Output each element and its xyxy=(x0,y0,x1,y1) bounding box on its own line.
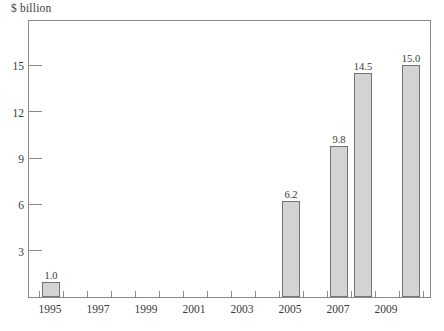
y-axis-tick xyxy=(29,111,42,112)
bar-value-label: 1.0 xyxy=(44,270,57,281)
x-axis-tick xyxy=(255,291,256,297)
y-axis-tick xyxy=(29,158,42,159)
y-axis-tick-label: 6 xyxy=(0,198,24,212)
x-axis-tick xyxy=(423,291,424,297)
y-axis-tick-label: 9 xyxy=(0,152,24,166)
y-axis-tick-label: 15 xyxy=(0,59,24,73)
y-axis-tick-label: 12 xyxy=(0,106,24,120)
x-axis-tick-label: 2005 xyxy=(279,303,302,315)
bar-1995 xyxy=(42,282,60,297)
x-axis-tick xyxy=(39,291,40,297)
y-axis-tick xyxy=(29,250,42,251)
x-axis-tick-label: 2009 xyxy=(375,303,398,315)
x-axis-tick xyxy=(327,291,328,297)
plot-area: 1.06.29.814.515.0 xyxy=(28,20,431,298)
x-axis-tick xyxy=(351,291,352,297)
x-axis-tick xyxy=(183,291,184,297)
bar-2010 xyxy=(402,65,420,297)
bar-2005 xyxy=(282,201,300,297)
x-axis-tick xyxy=(375,291,376,297)
x-axis-tick xyxy=(63,291,64,297)
y-axis-tick xyxy=(29,204,42,205)
x-axis-tick-label: 2001 xyxy=(183,303,206,315)
x-axis-tick xyxy=(87,291,88,297)
x-axis-tick-label: 1995 xyxy=(39,303,62,315)
x-axis-tick-label: 2007 xyxy=(327,303,350,315)
x-axis-tick xyxy=(303,291,304,297)
bar-value-label: 9.8 xyxy=(332,134,345,145)
x-axis-tick-label: 1997 xyxy=(87,303,110,315)
bar-value-label: 6.2 xyxy=(284,189,297,200)
y-axis-tick xyxy=(29,65,42,66)
bar-2007 xyxy=(330,146,348,297)
x-axis-tick-label: 1999 xyxy=(135,303,158,315)
x-axis-tick xyxy=(159,291,160,297)
x-axis-tick-label: 2003 xyxy=(231,303,254,315)
x-axis-tick xyxy=(279,291,280,297)
x-axis-tick xyxy=(207,291,208,297)
y-axis-tick-label: 3 xyxy=(0,245,24,259)
bar-value-label: 14.5 xyxy=(354,61,372,72)
x-axis-tick xyxy=(111,291,112,297)
x-axis-tick xyxy=(135,291,136,297)
bar-chart-figure: $ billion 1.06.29.814.515.0 369121519951… xyxy=(0,0,444,331)
bar-value-label: 15.0 xyxy=(402,53,420,64)
x-axis-tick xyxy=(231,291,232,297)
y-axis-unit-label: $ billion xyxy=(11,2,51,14)
bar-2008 xyxy=(354,73,372,297)
x-axis-tick xyxy=(399,291,400,297)
